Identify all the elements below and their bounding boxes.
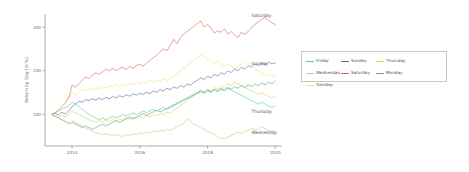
series-annotation-sunday: Sunday [252,61,269,66]
legend-swatch-saturday-icon [341,73,349,74]
legend-swatch-thursday-icon [376,61,384,62]
x-tick-label: 2014 [67,150,78,155]
legend-label: Friday [316,58,329,64]
legend-swatch-friday-icon [306,61,314,62]
series-line-tuesday [52,55,275,114]
series-line-friday [52,88,275,119]
line-chart-svg: 1002003002014201620182020 SaturdaySunday… [0,0,296,172]
legend-item-monday[interactable]: Monday [376,67,411,79]
series-annotation-thursday: Thursday [251,109,273,114]
legend-item-sunday[interactable]: Sunday [341,55,376,67]
y-axis-title: Return by Day (in %) [24,57,29,103]
chart-screenshot-root: 1002003002014201620182020 SaturdaySunday… [0,0,469,172]
plot-area [52,18,275,140]
legend-item-friday[interactable]: Friday [306,55,341,67]
y-tick-label: 100 [33,112,41,117]
legend-item-thursday[interactable]: Thursday [376,55,411,67]
series-annotation-saturday: Saturday [252,13,272,18]
y-tick-label: 200 [33,68,41,73]
legend-label: Monday [386,70,402,76]
legend-label: Thursday [386,58,405,64]
legend-swatch-monday-icon [376,73,384,74]
y-tick-label: 300 [33,25,41,30]
chart-figure: 1002003002014201620182020 SaturdaySunday… [0,0,296,172]
legend-label: Tuesday [316,82,333,88]
chart-legend: FridaySundayThursdayWednesdaySaturdayMon… [301,51,447,82]
legend-items: FridaySundayThursdayWednesdaySaturdayMon… [306,55,442,91]
legend-swatch-wednesday-icon [306,73,314,74]
x-tick-label: 2020 [270,150,281,155]
legend-label: Wednesday [316,70,340,76]
series-line-thursday [52,82,275,122]
x-tick-label: 2018 [202,150,213,155]
series-annotations: SaturdaySundayThursdayWednesday [251,13,278,135]
legend-swatch-sunday-icon [341,61,349,62]
legend-item-tuesday[interactable]: Tuesday [306,79,341,91]
axes: 1002003002014201620182020 [33,14,282,155]
legend-item-wednesday[interactable]: Wednesday [306,67,341,79]
legend-label: Sunday [351,58,367,64]
x-tick-label: 2016 [134,150,145,155]
legend-item-saturday[interactable]: Saturday [341,67,376,79]
series-line-sunday [52,62,275,115]
series-line-monday [52,81,275,129]
legend-label: Saturday [351,70,370,76]
series-annotation-wednesday: Wednesday [252,130,278,135]
legend-swatch-tuesday-icon [306,85,314,86]
